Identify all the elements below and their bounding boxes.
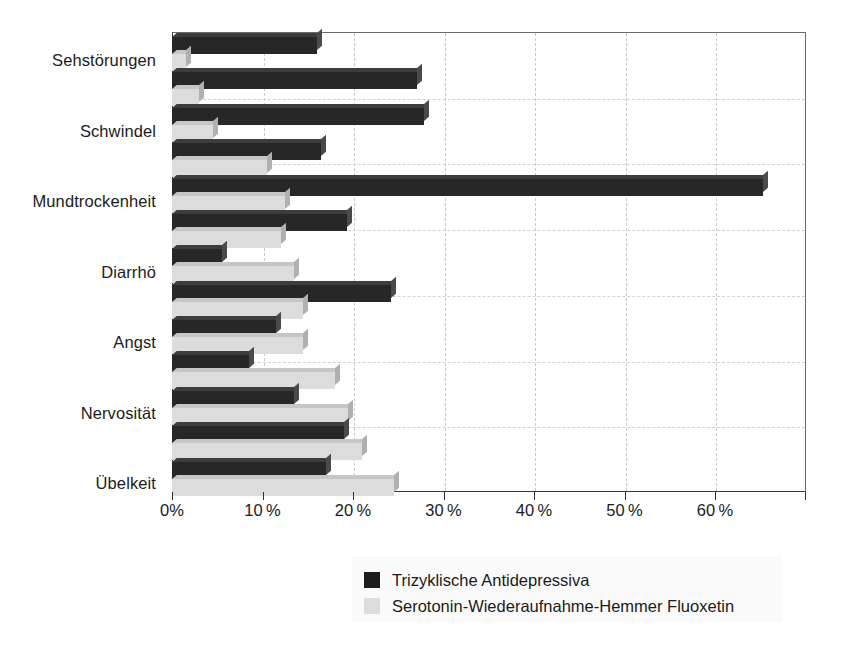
x-axis-tick-label: 40 % bbox=[516, 502, 552, 519]
bar-side-face bbox=[347, 206, 352, 227]
bar-side-face bbox=[348, 400, 353, 421]
bar-top-face bbox=[172, 210, 351, 214]
bar-top-face bbox=[172, 458, 331, 462]
x-axis-tick bbox=[534, 492, 535, 500]
bar-side-face bbox=[285, 187, 290, 208]
x-axis: 0%10 %20 %30 %40 %50 %60 % bbox=[172, 492, 806, 532]
y-axis-label: Angst bbox=[113, 334, 156, 351]
bar-side-face bbox=[213, 117, 218, 138]
bar-trizyklische-antidepressiva bbox=[172, 72, 417, 89]
bar-side-face bbox=[335, 364, 340, 385]
legend: Trizyklische AntidepressivaSerotonin-Wie… bbox=[352, 556, 782, 622]
bar-top-face bbox=[172, 439, 367, 443]
bar-side-face bbox=[186, 46, 191, 67]
bar-side-face bbox=[344, 418, 349, 439]
legend-item: Trizyklische Antidepressiva bbox=[364, 568, 589, 592]
bar-side-face bbox=[199, 81, 204, 102]
x-axis-tick bbox=[444, 492, 445, 500]
bar-side-face bbox=[362, 435, 367, 456]
bar-chart-figure: SehstörungenSchwindelMundtrockenheitDiar… bbox=[0, 0, 850, 655]
bar-side-face bbox=[326, 453, 331, 474]
x-axis-tick bbox=[172, 492, 173, 500]
bar-side-face bbox=[294, 383, 299, 404]
bar-side-face bbox=[394, 470, 399, 491]
bar-side-face bbox=[249, 347, 254, 368]
x-axis-tick bbox=[353, 492, 354, 500]
bar-side-face bbox=[276, 312, 281, 333]
y-axis-label: Nervosität bbox=[81, 405, 156, 422]
x-axis-tick-end bbox=[805, 492, 806, 500]
legend-swatch-dark bbox=[364, 572, 380, 588]
bar-side-face bbox=[222, 241, 227, 262]
bar-top-face bbox=[172, 422, 349, 426]
bar-top-face bbox=[172, 227, 285, 231]
x-axis-tick-label: 30 % bbox=[425, 502, 461, 519]
y-axis-label: Übelkeit bbox=[96, 475, 156, 492]
bar-top-face bbox=[172, 192, 290, 196]
bar-top-face bbox=[172, 351, 254, 355]
x-axis-tick bbox=[625, 492, 626, 500]
bar-side-face bbox=[294, 258, 299, 279]
bar-top-face bbox=[172, 387, 299, 391]
y-axis-label: Schwindel bbox=[80, 123, 156, 140]
bar-side-face bbox=[417, 64, 422, 85]
legend-swatch-light bbox=[364, 598, 380, 614]
y-axis-label: Sehstörungen bbox=[52, 52, 156, 69]
bar-top-face bbox=[172, 175, 768, 179]
bar-side-face bbox=[391, 276, 396, 297]
bar-top-face bbox=[172, 68, 422, 72]
bar-top-face bbox=[172, 404, 353, 408]
bar-side-face bbox=[281, 223, 286, 244]
bar-top-face bbox=[172, 121, 217, 125]
x-axis-tick-label: 10 % bbox=[244, 502, 280, 519]
legend-label: Trizyklische Antidepressiva bbox=[392, 572, 589, 589]
bar-side-face bbox=[424, 100, 429, 121]
bar-top-face bbox=[172, 245, 227, 249]
y-axis-label: Mundtrockenheit bbox=[33, 193, 157, 210]
bar-side-face bbox=[763, 170, 768, 191]
bar-trizyklische-antidepressiva bbox=[172, 37, 317, 54]
bar-top-face bbox=[172, 281, 396, 285]
y-axis-label: Diarrhö bbox=[101, 264, 156, 281]
bar-top-face bbox=[172, 156, 272, 160]
bar-top-face bbox=[172, 316, 281, 320]
bar-top-face bbox=[172, 475, 398, 479]
bar-top-face bbox=[172, 33, 322, 37]
legend-label: Serotonin-Wiederaufnahme-Hemmer Fluoxeti… bbox=[392, 598, 734, 615]
x-axis-tick-label: 60 % bbox=[697, 502, 733, 519]
bar-top-face bbox=[172, 333, 308, 337]
bar-top-face bbox=[172, 139, 326, 143]
bar-side-face bbox=[321, 135, 326, 156]
bar-side-face bbox=[303, 293, 308, 314]
x-axis-tick bbox=[263, 492, 264, 500]
bar-top-face bbox=[172, 104, 428, 108]
bar-top-face bbox=[172, 298, 308, 302]
y-axis-labels: SehstörungenSchwindelMundtrockenheitDiar… bbox=[0, 30, 164, 492]
x-axis-tick-label: 0% bbox=[160, 502, 184, 519]
x-axis-tick bbox=[715, 492, 716, 500]
legend-item: Serotonin-Wiederaufnahme-Hemmer Fluoxeti… bbox=[364, 594, 734, 618]
bar-body bbox=[172, 72, 417, 89]
bar-top-face bbox=[172, 262, 299, 266]
bar-top-face bbox=[172, 368, 340, 372]
bar-side-face bbox=[267, 152, 272, 173]
bars-layer bbox=[172, 32, 806, 492]
bar-side-face bbox=[303, 329, 308, 350]
bar-side-face bbox=[317, 29, 322, 50]
x-axis-tick-label: 50 % bbox=[606, 502, 642, 519]
bar-body bbox=[172, 37, 317, 54]
x-axis-tick-label: 20 % bbox=[335, 502, 371, 519]
